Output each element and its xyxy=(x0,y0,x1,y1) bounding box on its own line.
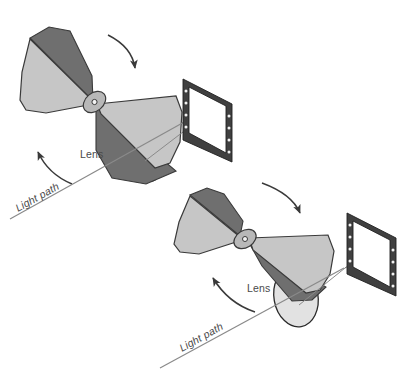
hub-pivot-hole-open xyxy=(243,237,248,242)
shutter-lens-diagram: Lens Light path xyxy=(0,0,419,379)
figure-root: Lens Light path xyxy=(0,0,419,379)
hub-pivot-hole xyxy=(92,99,97,104)
lens-label-closed: Lens xyxy=(80,148,104,160)
lens-label-open: Lens xyxy=(247,282,271,294)
